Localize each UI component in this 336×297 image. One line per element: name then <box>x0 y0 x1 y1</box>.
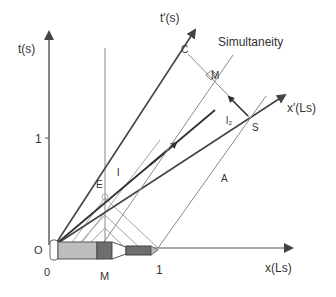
spacetime-diagram: t(s) 1 t′(s) Simultaneity C M x′(Ls) S l… <box>0 0 336 297</box>
line-A <box>158 96 266 248</box>
line-l-label: l <box>117 166 119 178</box>
line-l2-label: l₂ <box>226 115 232 126</box>
point-M-upper-label: M <box>211 70 219 81</box>
simultaneity-line <box>102 55 233 245</box>
origin-t-label: O <box>34 244 43 256</box>
point-A-label: A <box>221 173 228 184</box>
x-axis-label: x(Ls) <box>265 261 292 275</box>
point-C-label: C <box>181 44 188 55</box>
t-axis-label: t(s) <box>18 42 35 56</box>
x-prime-axis-label: x′(Ls) <box>287 101 316 115</box>
simultaneity-label: Simultaneity <box>218 35 283 49</box>
train <box>50 240 158 260</box>
t-prime-axis-label: t′(s) <box>160 11 180 25</box>
line-l-arrow <box>150 143 176 165</box>
line-l2-arrow <box>229 97 248 116</box>
x-tick-label: 1 <box>156 263 163 277</box>
x-mid-label: M <box>100 270 109 282</box>
t-prime-axis <box>55 30 195 245</box>
origin-x-label: 0 <box>44 266 50 278</box>
t-tick-label: 1 <box>35 132 42 146</box>
point-S-label: S <box>252 122 259 133</box>
line-l <box>55 110 215 245</box>
point-E-label: E <box>96 179 103 190</box>
